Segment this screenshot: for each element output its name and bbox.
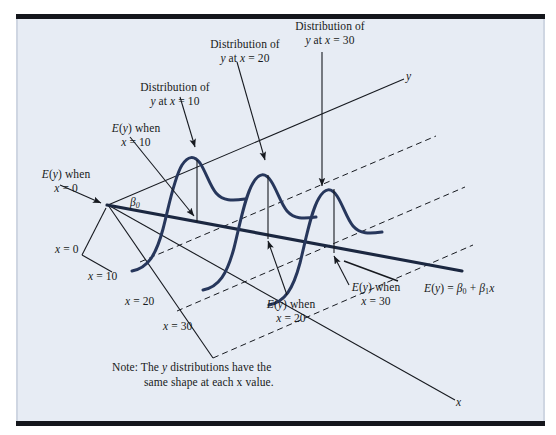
plane-line-x10 xyxy=(140,136,436,262)
callout-ey-x20: E(y) when x = 20 xyxy=(243,298,339,325)
diagram-artwork xyxy=(0,0,556,435)
leader-regression-equation xyxy=(344,261,398,281)
leader-distribution-x20 xyxy=(237,62,265,160)
x-tick-30: x = 30 xyxy=(163,320,192,334)
figure-page: Distribution of y at x = 20 Distribution… xyxy=(0,0,556,435)
y-axis-label: y xyxy=(406,70,411,84)
callout-ey-x30: E(y) when x = 30 xyxy=(328,281,424,308)
x-tick-20: x = 20 xyxy=(125,295,154,309)
callout-distribution-x30: Distribution of y at x = 30 xyxy=(270,20,390,47)
callout-distribution-x10: Distribution of y at x = 10 xyxy=(115,81,235,108)
x-axis-label: x xyxy=(456,396,461,410)
callout-ey-x0: E(y) when x = 0 xyxy=(18,168,114,195)
x-tick-10: x = 10 xyxy=(88,270,117,284)
figure-note: Note: The y distributions have the same … xyxy=(112,360,274,390)
regression-equation-label: E(y) = β0 + β1x xyxy=(424,282,494,299)
x-tick-0: x = 0 xyxy=(55,243,79,257)
callout-ey-x10: E(y) when x = 10 xyxy=(88,122,184,149)
leader-x0-tick xyxy=(82,208,106,255)
depth-edge-front xyxy=(108,205,213,358)
intercept-label: β0 xyxy=(130,196,140,213)
leader-ey-x20 xyxy=(268,241,287,295)
